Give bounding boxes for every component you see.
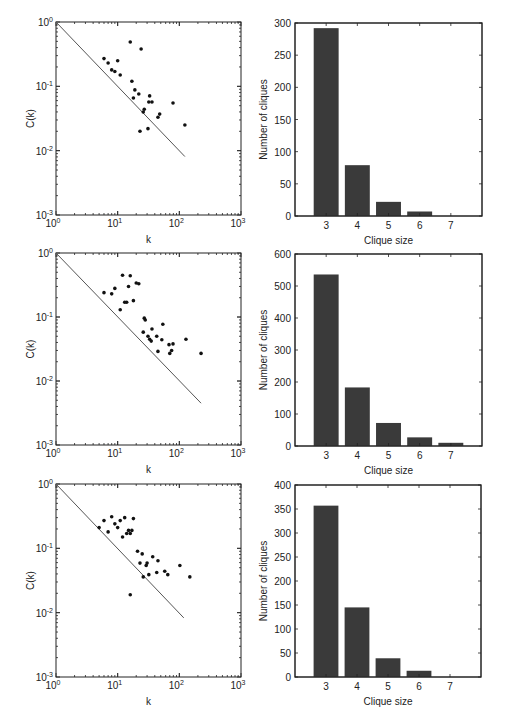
bar-3: 34567050100150200250300350400Clique size…	[258, 480, 481, 707]
data-point	[146, 127, 150, 131]
data-point	[123, 516, 127, 520]
bar-1: 34567050100150200250300Clique sizeNumber…	[258, 18, 482, 246]
x-tick-label: 100	[45, 679, 60, 691]
data-point	[143, 318, 147, 322]
data-point	[171, 101, 175, 105]
y-tick-label: 150	[274, 115, 291, 126]
y-tick-label: 10-2	[36, 375, 53, 387]
data-point	[128, 40, 132, 44]
data-point	[138, 130, 142, 134]
data-point	[133, 88, 137, 92]
data-point	[113, 70, 117, 74]
bar-4	[345, 607, 370, 677]
data-point	[151, 555, 155, 559]
data-point	[130, 79, 134, 83]
data-point	[113, 287, 117, 291]
bar-3	[314, 28, 339, 216]
y-tick-label: 10-2	[36, 607, 53, 619]
bar-3	[314, 506, 339, 677]
x-tick-label: 4	[355, 220, 361, 231]
data-points	[102, 273, 203, 355]
data-point	[145, 561, 149, 565]
data-point	[155, 571, 159, 575]
y-tick-label: 100	[38, 247, 53, 259]
data-point	[147, 573, 151, 577]
y-axis-label: Number of cliques	[258, 310, 269, 391]
x-axis-label: Clique size	[364, 696, 413, 707]
y-tick-label: 50	[280, 179, 292, 190]
data-point	[110, 68, 114, 72]
scatter-2: 10010110210310-310-210-1100kC(k)	[25, 247, 246, 475]
data-point	[155, 334, 159, 338]
data-point	[113, 522, 117, 526]
x-tick-label: 5	[385, 681, 391, 692]
data-point	[106, 530, 110, 534]
data-point	[132, 517, 136, 521]
x-axis-label: k	[146, 464, 152, 475]
x-tick-label: 7	[448, 450, 454, 461]
data-point	[148, 94, 152, 98]
x-tick-label: 103	[230, 447, 245, 459]
scatter-3: 10010110210310-310-210-1100kC(k)	[25, 478, 246, 707]
y-tick-label: 0	[285, 211, 291, 222]
data-point	[161, 322, 165, 326]
data-point	[166, 573, 170, 577]
y-tick-label: 100	[38, 478, 53, 490]
x-tick-label: 6	[417, 450, 423, 461]
data-point	[121, 273, 125, 277]
x-tick-label: 5	[386, 220, 392, 231]
y-tick-label: 10-1	[36, 311, 53, 323]
x-tick-label: 102	[169, 679, 184, 691]
data-point	[163, 569, 167, 573]
x-tick-label: 101	[107, 217, 122, 229]
x-tick-label: 103	[230, 217, 245, 229]
data-point	[141, 330, 145, 334]
x-tick-label: 6	[417, 220, 423, 231]
data-point	[128, 274, 132, 278]
y-tick-label: 500	[274, 281, 291, 292]
y-tick-label: 10-2	[36, 145, 53, 157]
x-tick-label: 3	[323, 681, 329, 692]
data-point	[183, 123, 187, 127]
bar-4	[345, 165, 370, 216]
data-points	[97, 515, 191, 597]
x-tick-label: 7	[447, 681, 453, 692]
y-tick-label: 600	[274, 249, 291, 260]
x-tick-label: 3	[323, 450, 329, 461]
data-point	[150, 100, 154, 104]
data-point	[178, 564, 182, 568]
y-axis-label: C(k)	[25, 109, 36, 128]
data-point	[127, 529, 131, 533]
data-point	[168, 352, 172, 356]
fit-line	[56, 484, 184, 618]
y-tick-label: 300	[274, 18, 291, 29]
y-tick-label: 350	[274, 504, 291, 515]
data-point	[110, 515, 114, 519]
y-tick-label: 150	[274, 600, 291, 611]
y-tick-label: 100	[38, 16, 53, 28]
data-point	[118, 519, 122, 523]
y-tick-label: 100	[274, 409, 291, 420]
data-point	[199, 352, 203, 356]
data-point	[147, 100, 151, 104]
data-point	[158, 112, 162, 116]
x-tick-label: 4	[355, 450, 361, 461]
data-point	[125, 532, 129, 536]
y-tick-label: 0	[285, 672, 291, 683]
y-tick-label: 400	[274, 313, 291, 324]
x-tick-label: 7	[448, 220, 454, 231]
x-tick-label: 5	[386, 450, 392, 461]
bars	[314, 28, 432, 216]
figure-canvas: 10010110210310-310-210-1100kC(k)34567050…	[0, 0, 505, 718]
data-point	[138, 561, 142, 565]
x-tick-label: 103	[230, 679, 245, 691]
x-tick-label: 102	[169, 447, 184, 459]
y-tick-label: 200	[274, 576, 291, 587]
figure: 10010110210310-310-210-1100kC(k)34567050…	[0, 0, 505, 718]
x-tick-label: 100	[45, 447, 60, 459]
y-tick-label: 50	[280, 648, 292, 659]
data-point	[102, 291, 106, 295]
data-point	[171, 342, 175, 346]
y-tick-label: 0	[285, 441, 291, 452]
x-tick-label: 101	[107, 447, 122, 459]
